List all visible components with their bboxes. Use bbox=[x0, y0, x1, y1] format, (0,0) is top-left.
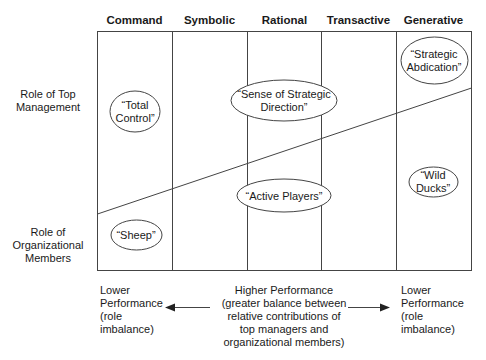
footer-line: Lower bbox=[100, 284, 163, 297]
footer-line: top managers and bbox=[204, 323, 364, 336]
footer-line: (role bbox=[401, 310, 464, 323]
label-active-players: “Active Players” bbox=[245, 190, 322, 203]
label-line: Direction” bbox=[237, 101, 331, 114]
footer-line: relative contributions of bbox=[204, 310, 364, 323]
arrow-right-icon bbox=[380, 304, 390, 312]
label-line: “Active Players” bbox=[245, 190, 322, 203]
label-sense-direction: “Sense of Strategic Direction” bbox=[237, 88, 331, 114]
label-line: Control” bbox=[115, 112, 154, 125]
label-total-control: “Total Control” bbox=[115, 99, 154, 125]
footer-line: imbalance) bbox=[100, 323, 163, 336]
label-line: “Sense of Strategic bbox=[237, 88, 331, 101]
label-line: Ducks” bbox=[416, 182, 450, 195]
footer-line: Performance bbox=[401, 297, 464, 310]
label-line: “Wild bbox=[416, 169, 450, 182]
label-sheep: “Sheep” bbox=[116, 229, 155, 242]
footer-left-lower-performance: Lower Performance (role imbalance) bbox=[100, 284, 163, 336]
footer-line: Performance bbox=[100, 297, 163, 310]
footer-line: Higher Performance bbox=[204, 284, 364, 297]
label-strategic-abdication: “Strategic Abdication” bbox=[406, 48, 461, 74]
label-line: “Total bbox=[115, 99, 154, 112]
footer-line: imbalance) bbox=[401, 323, 464, 336]
footer-line: Lower bbox=[401, 284, 464, 297]
footer-line: (greater balance between bbox=[204, 297, 364, 310]
arrow-left-icon bbox=[165, 304, 175, 312]
footer-line: (role bbox=[100, 310, 163, 323]
footer-right-lower-performance: Lower Performance (role imbalance) bbox=[401, 284, 464, 336]
footer-center-higher-performance: Higher Performance (greater balance betw… bbox=[204, 284, 364, 349]
label-line: “Strategic bbox=[406, 48, 461, 61]
label-line: Abdication” bbox=[406, 61, 461, 74]
label-line: “Sheep” bbox=[116, 229, 155, 242]
label-wild-ducks: “Wild Ducks” bbox=[416, 169, 450, 195]
footer-line: organizational members) bbox=[204, 336, 364, 349]
